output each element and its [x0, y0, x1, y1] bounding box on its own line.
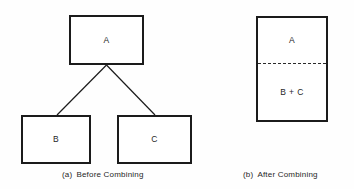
- combined-top-region: A: [258, 18, 326, 63]
- caption-before-combining: (a)Before Combining: [62, 170, 144, 179]
- caption-after-combining: (b)After Combining: [243, 170, 318, 179]
- caption-a-text: Before Combining: [76, 170, 143, 179]
- node-box-c: C: [117, 115, 192, 164]
- combined-bottom-region: B + C: [258, 65, 326, 120]
- node-box-a: A: [69, 15, 144, 65]
- node-box-combined: A B + C: [256, 16, 328, 122]
- node-label-a: A: [103, 36, 109, 45]
- connector-a-to-b: [57, 65, 107, 115]
- combined-bottom-label: B + C: [280, 88, 304, 97]
- node-label-b: B: [53, 135, 59, 144]
- node-box-b: B: [21, 115, 91, 164]
- figure-root: A B C A B + C (a)Before Combining (b)Aft…: [0, 0, 354, 189]
- caption-b-tag: (b): [243, 170, 253, 179]
- caption-b-text: After Combining: [257, 170, 317, 179]
- combined-top-label: A: [289, 36, 295, 45]
- node-label-c: C: [151, 135, 158, 144]
- combined-divider-dashed-line: [258, 63, 326, 64]
- caption-a-tag: (a): [62, 170, 72, 179]
- connector-a-to-c: [107, 65, 156, 115]
